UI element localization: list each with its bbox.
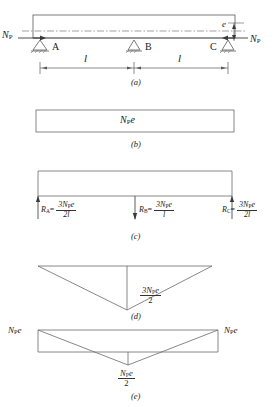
panel-d-fraction: 3NPe 2 bbox=[140, 286, 161, 305]
reaction-a-fraction: 3NPe 2l bbox=[56, 201, 76, 219]
support-label-a: A bbox=[52, 42, 59, 52]
panel-e-fraction: NPe 2 bbox=[118, 369, 135, 388]
panel-e-left-label: NPe bbox=[8, 326, 21, 335]
reaction-c-fraction: 3NPe 2l bbox=[237, 201, 257, 219]
support-b-triangle bbox=[128, 40, 140, 50]
panel-d-caption: (d) bbox=[131, 312, 141, 321]
support-a-triangle bbox=[33, 40, 47, 50]
span-arrow-mid-left bbox=[127, 66, 132, 69]
support-a-hatch bbox=[35, 50, 38, 53]
support-c-triangle bbox=[222, 40, 234, 50]
support-c-hatch bbox=[228, 50, 231, 53]
force-label-right: NP bbox=[250, 34, 260, 45]
support-c-hatch bbox=[224, 50, 227, 53]
support-a-hatch bbox=[31, 50, 34, 53]
panel-e-numerator: NPe bbox=[118, 369, 135, 378]
reaction-a-denominator: 2l bbox=[56, 210, 76, 219]
span-arrow-mid-right bbox=[136, 66, 141, 69]
support-c-hatch bbox=[220, 50, 223, 53]
reaction-arrow-b-head bbox=[133, 213, 137, 220]
support-b-hatch bbox=[130, 50, 133, 53]
eccentricity-label: e bbox=[222, 20, 226, 29]
figure-container: NP NP e A B C l l (a) NPe (b) RA= 3NPe 2… bbox=[0, 0, 279, 407]
panel-e-right-label: NPe bbox=[224, 326, 237, 335]
reaction-formula-b: RB= 3NPe l bbox=[139, 201, 174, 219]
reaction-formula-c: RC= 3NPe 2l bbox=[222, 201, 257, 219]
reaction-b-fraction: 3NPe l bbox=[154, 201, 174, 219]
support-a-hatch bbox=[43, 50, 46, 53]
reaction-formula-a: RA= 3NPe 2l bbox=[41, 201, 76, 219]
span-arrow-right bbox=[221, 66, 226, 69]
support-b-hatch bbox=[126, 50, 129, 53]
span-label-left: l bbox=[84, 53, 87, 64]
panel-e-right-slope bbox=[128, 330, 218, 365]
panel-a-caption: (a) bbox=[131, 78, 141, 87]
panel-d-left-slope bbox=[38, 266, 127, 310]
reaction-c-numerator: 3NPe bbox=[237, 201, 257, 210]
force-arrow-right-head bbox=[222, 35, 228, 40]
reaction-c-denominator: 2l bbox=[237, 210, 257, 219]
force-label-left: NP bbox=[2, 30, 12, 41]
panel-b-value-label: NPe bbox=[120, 115, 135, 126]
panel-d-numerator: 3NPe bbox=[140, 286, 161, 295]
panel-c-caption: (c) bbox=[131, 232, 140, 241]
panel-e-denominator: 2 bbox=[118, 378, 135, 388]
beam-outline bbox=[33, 15, 235, 38]
panel-d-denominator: 2 bbox=[140, 295, 161, 305]
reaction-b-numerator: 3NPe bbox=[154, 201, 174, 210]
span-label-right: l bbox=[178, 53, 181, 64]
support-a-hatch bbox=[39, 50, 42, 53]
reaction-arrow-a-head bbox=[36, 196, 40, 202]
support-label-c: C bbox=[210, 42, 217, 52]
span-arrow-left bbox=[42, 66, 47, 69]
panel-e-caption: (e) bbox=[131, 392, 140, 401]
panel-e-left-slope bbox=[38, 330, 128, 365]
reaction-b-denominator: l bbox=[154, 210, 174, 219]
primary-moment-block bbox=[36, 110, 234, 132]
force-arrow-left-head bbox=[40, 35, 46, 40]
panel-e-centre-label: NPe 2 bbox=[118, 369, 135, 388]
support-b-hatch bbox=[134, 50, 137, 53]
panel-d-value-label: 3NPe 2 bbox=[140, 286, 161, 305]
panel-b-caption: (b) bbox=[131, 140, 141, 149]
reaction-a-numerator: 3NPe bbox=[56, 201, 76, 210]
support-label-b: B bbox=[145, 42, 152, 52]
